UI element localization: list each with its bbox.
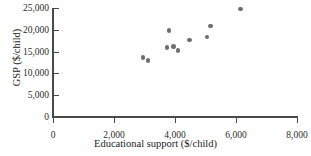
y-tick-mark <box>54 8 59 9</box>
x-tick-mark <box>236 118 237 123</box>
data-point <box>205 35 210 40</box>
x-axis-title: Educational support ($/child) <box>0 138 311 149</box>
x-tick-mark <box>53 118 54 123</box>
x-tick-mark <box>175 118 176 123</box>
y-tick-mark <box>54 95 59 96</box>
data-point <box>238 7 243 12</box>
data-point <box>167 28 172 33</box>
data-point <box>146 58 151 63</box>
x-tick-mark <box>297 118 298 123</box>
y-axis-title: GSP ($/child) <box>11 0 22 118</box>
data-point <box>176 48 181 53</box>
y-tick-label: 15,000 <box>0 47 49 57</box>
y-tick-mark <box>54 52 59 53</box>
y-tick-label: 20,000 <box>0 25 49 35</box>
y-tick-label: 10,000 <box>0 68 49 78</box>
y-tick-mark <box>54 30 59 31</box>
x-tick-mark <box>114 118 115 123</box>
data-point <box>141 55 146 60</box>
data-point <box>171 44 176 49</box>
data-point <box>208 24 213 29</box>
y-tick-mark <box>54 117 59 118</box>
scatter-plot-figure: 05,00010,00015,00020,00025,000 02,0004,0… <box>0 0 311 156</box>
data-point <box>187 38 192 43</box>
y-axis-line <box>52 8 54 118</box>
y-tick-mark <box>54 73 59 74</box>
y-tick-label: 5,000 <box>0 90 49 100</box>
data-point <box>165 45 170 50</box>
y-tick-label: 25,000 <box>0 3 49 13</box>
y-tick-label: 0 <box>0 112 49 122</box>
